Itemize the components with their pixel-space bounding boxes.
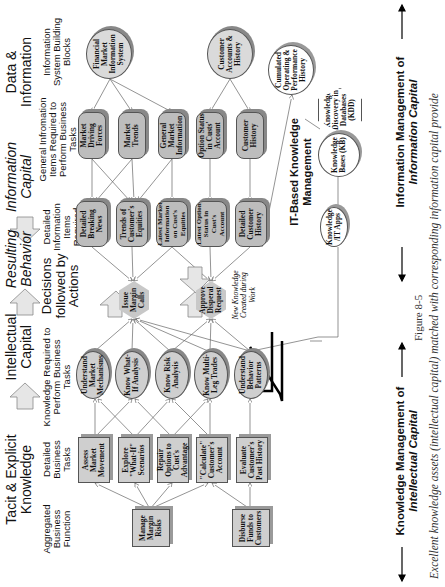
header-data-information: Data & Information <box>4 27 33 117</box>
subheader-knowledge-required: Knowledge Required to Perform Business T… <box>42 327 72 427</box>
knowledge-apps-node: Knowledge /IT Apps <box>320 207 348 247</box>
knowledge-node: Know Multi-Leg Trades <box>194 351 228 399</box>
general-info-node: General Market Information <box>158 112 186 159</box>
task-node: Explore "What-If" Scenarios <box>118 437 150 483</box>
knowledge-base-node: Knowledge Bases (KB) <box>318 133 360 177</box>
detailed-info-node: Trends of Customer's Equities <box>116 201 148 247</box>
knowledge-node: Know Risk Analysis <box>155 351 189 399</box>
im-information-label: Information Management of Information Ca… <box>394 47 420 217</box>
task-node: Evaluate Customer's Past History <box>236 437 268 483</box>
knowledge-node: Understand Behavior Patterns <box>234 351 268 399</box>
subheader-aggregated: Aggregated Business Function <box>42 499 72 559</box>
task-node: "Calculate" Customer's Account <box>196 437 228 483</box>
info-system-node: Customer Accounts & History <box>207 29 253 79</box>
knowledge-node: Know What-If Analysis <box>115 351 149 399</box>
general-info-node: Customer History <box>236 112 264 159</box>
aggregated-function-node: Disburse Funds to Customers <box>232 509 270 547</box>
subheader-detailed-tasks: Detailed Business Tasks <box>42 432 72 487</box>
new-knowledge-note: New Knowledge Created during Work <box>232 265 257 325</box>
km-intellectual-line2: Intellectual Capital <box>407 379 420 543</box>
it-km-title: IT-Based Knowledge Management <box>288 102 313 242</box>
general-info-node: Market Trends <box>118 112 146 159</box>
cumulated-history-node: Cumulated Operating & Performance Histor… <box>268 45 314 95</box>
header-resulting-behavior: Resulting Behavior <box>4 229 33 289</box>
detailed-info-node: Detailed Customer History <box>235 201 267 247</box>
header-intellectual-capital: Intellectual Capital <box>4 311 33 383</box>
detailed-info-node: Detailed Breaking News <box>76 201 108 247</box>
knowledge-node: Understand Market Mechanisms <box>76 351 110 399</box>
task-node: Repair Options to Cust's Advantage <box>157 437 189 483</box>
km-intellectual-line1: Knowledge Management of <box>394 379 407 543</box>
general-info-node: Market Driving Forces <box>78 112 106 159</box>
task-node: Assess Market Movement <box>78 437 110 483</box>
diagram-stage: Tacit & Explicit Knowledge Intellectual … <box>0 0 445 587</box>
im-information-line2: Information Capital <box>407 47 420 217</box>
km-intellectual-label: Knowledge Management of Intellectual Cap… <box>394 379 420 543</box>
figure-caption: Excellent knowledge assets (intellectual… <box>428 93 440 579</box>
header-tacit-explicit: Tacit & Explicit Knowledge <box>4 412 33 547</box>
detailed-info-node: Latest Option Status in Cust's Account <box>195 201 227 247</box>
subheader-info-system: Information System Building Blocks <box>42 17 72 87</box>
figure-number: Figure 8-5 <box>412 295 424 341</box>
detailed-info-node: Latest Market Information on Cust's Equi… <box>156 201 188 247</box>
subheader-general-info: General Infromation Items Required to Pe… <box>38 92 78 187</box>
info-system-node: Financial Market Information System <box>86 29 132 79</box>
header-information-capital: Information Capital <box>4 137 33 217</box>
im-information-line1: Information Management of <box>394 47 407 217</box>
general-info-node: Option Status in Custs' Account <box>196 112 224 159</box>
aggregated-function-node: Manage Margin Risks <box>132 509 170 547</box>
